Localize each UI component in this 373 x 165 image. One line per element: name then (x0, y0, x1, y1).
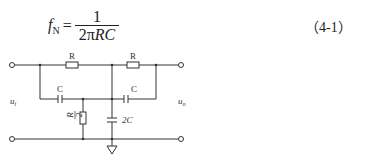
label-2c: 2C (122, 115, 134, 125)
terminals (10, 63, 184, 142)
output-terminal-top (179, 63, 184, 68)
capacitor-left (58, 95, 62, 103)
label-c-left: C (57, 84, 63, 94)
label-r-left: R (69, 51, 75, 61)
input-terminal-top (10, 63, 15, 68)
resistor-top-left (66, 62, 78, 68)
capacitor-right (124, 95, 128, 103)
capacitor-shunt-2c (107, 118, 117, 122)
label-output-uo: uo (178, 96, 186, 107)
label-input-ui: ui (10, 96, 17, 107)
output-terminal-bottom (179, 137, 184, 142)
junction-dots (39, 64, 158, 141)
twin-t-circuit-diagram: R R C C 2C R 2 ui uo (0, 0, 373, 165)
label-c-right: C (131, 84, 137, 94)
label-r-right: R (130, 51, 136, 61)
resistor-top-right (127, 62, 139, 68)
input-terminal-bottom (10, 137, 15, 142)
svg-text:2: 2 (74, 112, 84, 117)
ground-icon (107, 146, 117, 154)
